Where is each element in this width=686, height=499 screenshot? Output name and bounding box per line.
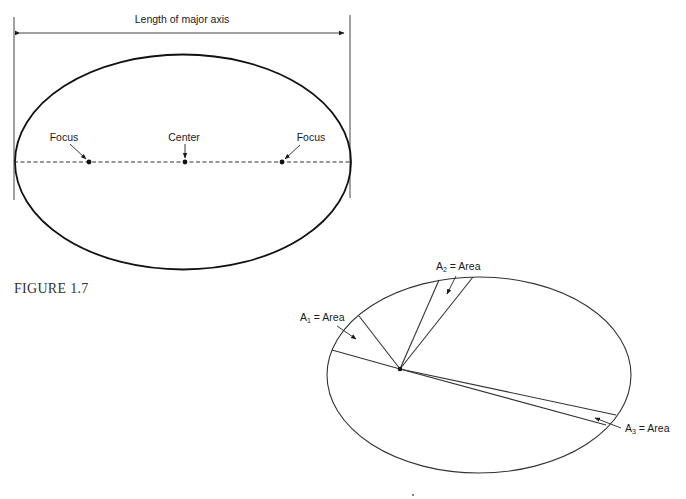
- area-label-a3: A3 = Area: [625, 422, 670, 435]
- figure-canvas: Length of major axis Focus Center Focus …: [0, 0, 686, 499]
- figure-caption: FIGURE 1.7: [14, 281, 89, 296]
- print-mark: [412, 494, 414, 496]
- radius-vector-a3-end: [400, 369, 606, 425]
- focus-point-left: [87, 160, 92, 165]
- focus-right-pointer-arrow: [285, 145, 300, 159]
- ellipse-anatomy-diagram: Length of major axis Focus Center Focus: [14, 13, 351, 270]
- area-label-a2: A2 = Area: [436, 260, 481, 273]
- radius-vector-a1-end: [359, 316, 400, 369]
- major-axis-label: Length of major axis: [135, 13, 230, 25]
- radius-vector-a2-start: [400, 280, 439, 369]
- radius-vector-a2-end: [400, 277, 473, 369]
- radius-vector-a1-start: [332, 350, 400, 369]
- center-label: Center: [168, 131, 200, 143]
- focus-point-right: [280, 160, 285, 165]
- center-point: [183, 160, 188, 165]
- radius-vector-a3-start: [400, 369, 616, 415]
- area-label-a1: A1 = Area: [300, 311, 345, 324]
- orbit-ellipse: [327, 277, 631, 473]
- focus-label-right: Focus: [297, 131, 326, 143]
- focus-left-pointer-arrow: [70, 144, 86, 159]
- equal-areas-diagram: A1 = Area A2 = Area A3 = Area: [300, 260, 670, 473]
- focus-label-left: Focus: [50, 131, 79, 143]
- area-a1-pointer-arrow: [337, 326, 356, 339]
- sun-focus-point: [398, 367, 403, 372]
